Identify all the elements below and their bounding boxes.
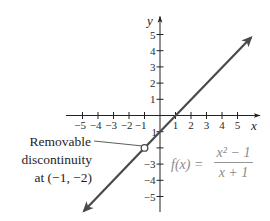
x-tick-label: −3: [105, 119, 117, 131]
y-tick-label: 5: [150, 29, 156, 41]
formula-lhs: f(x) =: [171, 157, 203, 173]
x-tick-label: −2: [121, 119, 133, 131]
y-tick-label: −5: [144, 191, 156, 203]
discontinuity-annotation: Removable discontinuity at (−1, −2): [22, 134, 93, 185]
formula-denominator: x + 1: [218, 165, 249, 180]
x-tick-labels: −5 −4 −3 −2 −1 1 2 3 4 5: [74, 119, 240, 131]
annotation-line-1: Removable: [30, 134, 91, 149]
y-tick-label: 4: [150, 45, 156, 57]
x-tick-label: −4: [90, 119, 102, 131]
function-formula: f(x) = x² − 1 x + 1: [171, 145, 253, 180]
open-circle-marker: [141, 145, 148, 152]
y-tick-label: 3: [150, 61, 156, 73]
x-tick-label: 1: [173, 119, 179, 131]
x-tick-label: −5: [74, 119, 86, 131]
x-tick-label: −1: [135, 119, 147, 131]
x-tick-label: 4: [219, 119, 225, 131]
y-tick-label: 1: [150, 93, 156, 105]
y-tick-label: −4: [144, 174, 156, 186]
x-tick-label: 2: [188, 119, 194, 131]
annotation-line-2: discontinuity: [22, 152, 93, 167]
x-axis-label: x: [250, 118, 257, 133]
annotation-leader-line: [94, 141, 141, 146]
x-tick-label: 3: [204, 119, 210, 131]
annotation-line-3: at (−1, −2): [34, 170, 92, 185]
y-axis-label: y: [145, 13, 153, 28]
formula-numerator: x² − 1: [216, 145, 251, 160]
function-graph-figure: y x −5 −4 −3 −2 −1 1 2 3 4 5: [0, 0, 270, 221]
graph-canvas: y x −5 −4 −3 −2 −1 1 2 3 4 5: [0, 0, 270, 221]
y-tick-label: 2: [150, 77, 156, 89]
y-tick-label: −3: [144, 158, 156, 170]
x-tick-label: 5: [235, 119, 241, 131]
